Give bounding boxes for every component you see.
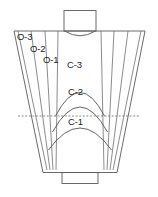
zone-label-c2: C-2 <box>68 87 83 97</box>
diagram-drawing <box>0 0 158 197</box>
zone-label-o3: O-3 <box>17 32 33 42</box>
throat-curve <box>65 31 96 36</box>
zone-arc-c1 <box>49 128 112 150</box>
top-neck-rectangle <box>64 11 96 32</box>
diagram-canvas: O-3 O-2 O-1 C-3 C-2 C-1 <box>0 0 158 197</box>
zone-line-right-outer <box>113 31 141 170</box>
zone-line-right-innermost <box>101 31 104 170</box>
base-rectangle <box>62 173 98 184</box>
zone-label-o1: O-1 <box>43 55 59 65</box>
zone-label-c3: C-3 <box>67 60 82 70</box>
zone-label-o2: O-2 <box>30 44 46 54</box>
zone-line-o-inner <box>56 31 58 170</box>
zone-label-c1: C-1 <box>68 117 83 127</box>
